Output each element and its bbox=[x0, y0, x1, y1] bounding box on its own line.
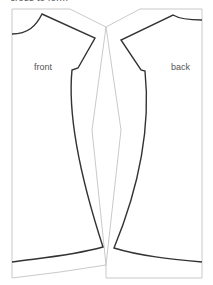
front-piece-outline bbox=[12, 14, 103, 262]
back-frame bbox=[106, 9, 202, 278]
back-label: back bbox=[171, 62, 190, 72]
front-label: front bbox=[34, 62, 52, 72]
pattern-diagram bbox=[0, 0, 213, 285]
back-piece-outline bbox=[114, 15, 202, 262]
front-frame bbox=[12, 9, 106, 278]
